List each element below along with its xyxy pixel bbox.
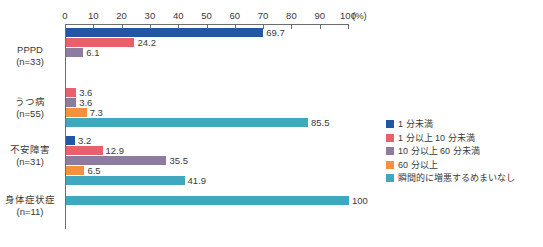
bar — [66, 118, 308, 127]
x-axis-tick-label: 80 — [286, 10, 297, 21]
legend-swatch-icon — [386, 147, 394, 155]
legend-item[interactable]: 60 分以上 — [386, 160, 515, 170]
x-axis-tick-labels: 0102030405060708090100 — [65, 10, 348, 24]
category-label-line: (n=55) — [0, 108, 60, 120]
category-label-line: 身体症状症 — [0, 194, 60, 206]
x-axis-tick-mark — [348, 24, 349, 29]
bar — [66, 88, 76, 97]
x-axis-tick-label: 10 — [88, 10, 99, 21]
category-label: 身体症状症(n=11) — [0, 194, 60, 218]
x-axis-tick-mark — [122, 24, 123, 29]
x-axis-unit-label: (%) — [352, 10, 367, 21]
category-label: うつ病(n=55) — [0, 96, 60, 120]
bar — [66, 146, 103, 155]
legend-swatch-icon — [386, 134, 394, 142]
category-label: 不安障害(n=31) — [0, 144, 60, 168]
legend-swatch-icon — [386, 120, 394, 128]
x-axis-tick-label: 60 — [230, 10, 241, 21]
bar-value-label: 100 — [352, 195, 368, 206]
bar — [66, 108, 87, 117]
x-axis-tick-mark — [150, 24, 151, 29]
legend-label: 1 分以上 10 分未満 — [398, 133, 475, 143]
legend-item[interactable]: 瞬間的に増悪するめまいなし — [386, 173, 515, 183]
legend-label: 1 分未満 — [398, 119, 433, 129]
bar-value-label: 35.5 — [169, 155, 188, 166]
category-label-line: (n=11) — [0, 206, 60, 218]
bar — [66, 48, 83, 57]
category-label-line: (n=31) — [0, 156, 60, 168]
category-label-line: うつ病 — [0, 96, 60, 108]
legend-item[interactable]: 1 分以上 10 分未満 — [386, 133, 515, 143]
bar — [66, 166, 84, 175]
legend-label: 10 分以上 60 分未満 — [398, 146, 480, 156]
bar — [66, 196, 349, 205]
x-axis-tick-mark — [207, 24, 208, 29]
x-axis-tick-mark — [65, 24, 66, 29]
bar-value-label: 6.5 — [87, 165, 100, 176]
category-label-line: (n=33) — [0, 56, 60, 68]
x-axis-tick-mark — [235, 24, 236, 29]
x-axis-tick-label: 70 — [258, 10, 269, 21]
x-axis-tick-mark — [263, 24, 264, 29]
bar — [66, 28, 263, 37]
bar-value-label: 3.2 — [78, 135, 91, 146]
chart-container: 0102030405060708090100 (%) PPPD(n=33)69.… — [0, 0, 543, 247]
bar-value-label: 7.3 — [90, 107, 103, 118]
category-label-line: 不安障害 — [0, 144, 60, 156]
x-axis-tick-label: 40 — [173, 10, 184, 21]
chart-legend: 1 分未満1 分以上 10 分未満10 分以上 60 分未満60 分以上瞬間的に… — [386, 119, 515, 187]
legend-label: 60 分以上 — [398, 160, 438, 170]
bar-value-label: 69.7 — [266, 27, 285, 38]
bar-value-label: 6.1 — [86, 47, 99, 58]
x-axis-tick-mark — [93, 24, 94, 29]
bar-value-label: 85.5 — [311, 117, 330, 128]
category-label: PPPD(n=33) — [0, 44, 60, 68]
legend-swatch-icon — [386, 174, 394, 182]
bar-value-label: 41.9 — [188, 175, 207, 186]
x-axis-tick-mark — [178, 24, 179, 29]
legend-label: 瞬間的に増悪するめまいなし — [398, 173, 515, 183]
x-axis-tick-label: 20 — [116, 10, 127, 21]
legend-item[interactable]: 1 分未満 — [386, 119, 515, 129]
bar — [66, 156, 166, 165]
legend-item[interactable]: 10 分以上 60 分未満 — [386, 146, 515, 156]
x-axis-tick-label: 50 — [201, 10, 212, 21]
bar — [66, 98, 76, 107]
bar — [66, 176, 185, 185]
x-axis-tick-label: 90 — [314, 10, 325, 21]
bar — [66, 136, 75, 145]
bar-value-label: 24.2 — [137, 37, 156, 48]
category-label-line: PPPD — [0, 44, 60, 56]
legend-swatch-icon — [386, 161, 394, 169]
bar-value-label: 12.9 — [106, 145, 125, 156]
x-axis-tick-mark — [320, 24, 321, 29]
x-axis-tick-label: 0 — [62, 10, 67, 21]
x-axis-tick-mark — [291, 24, 292, 29]
bar — [66, 38, 134, 47]
x-axis-tick-label: 30 — [145, 10, 156, 21]
